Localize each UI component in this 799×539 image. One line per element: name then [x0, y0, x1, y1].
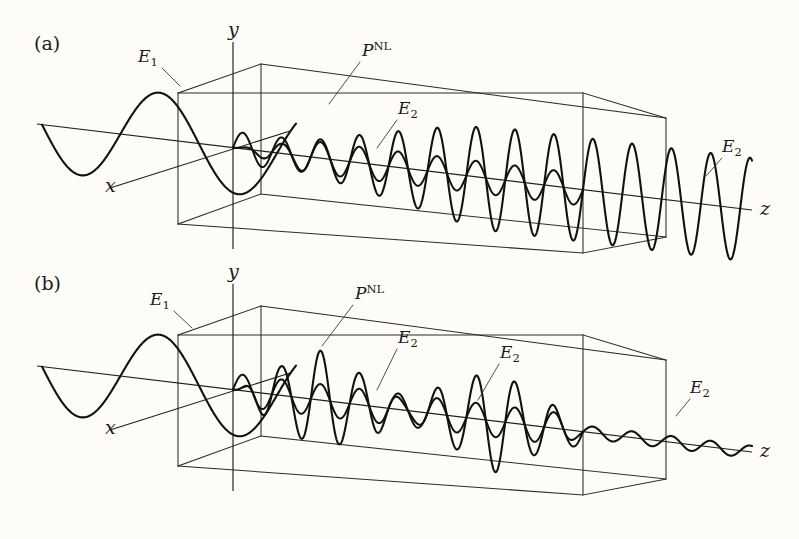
panel-b-z-axis-label: z: [759, 439, 771, 461]
panel-b-x-axis-label: x: [105, 416, 116, 438]
figure-canvas: (a) z x y: [0, 0, 799, 539]
panel-a-label: (a): [34, 32, 60, 54]
figure-root: (a) z x y: [0, 0, 799, 539]
panel-a-y-axis-label: y: [227, 18, 239, 40]
panel-b-y-axis-label: y: [227, 260, 239, 282]
panel-b-label: (b): [34, 272, 61, 294]
panel-a-z-axis-label: z: [759, 197, 771, 219]
figure-background: [0, 0, 799, 539]
panel-a-x-axis-label: x: [105, 174, 116, 196]
